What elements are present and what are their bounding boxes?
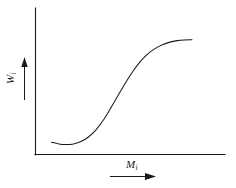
sigmoid-data-curve <box>51 40 192 145</box>
plot-canvas <box>0 0 236 188</box>
y-axis-label: Wi <box>5 73 18 85</box>
y-axis-label-subscript: i <box>10 73 19 75</box>
x-axis-label-symbol: M <box>126 158 135 170</box>
x-axis-label: Mi <box>126 159 138 172</box>
y-axis-direction-arrow <box>21 57 27 100</box>
figure-container: Wi Mi <box>0 0 236 188</box>
x-axis-direction-arrow <box>110 173 156 180</box>
y-axis-label-symbol: W <box>4 75 16 84</box>
x-axis-label-subscript: i <box>135 163 137 172</box>
